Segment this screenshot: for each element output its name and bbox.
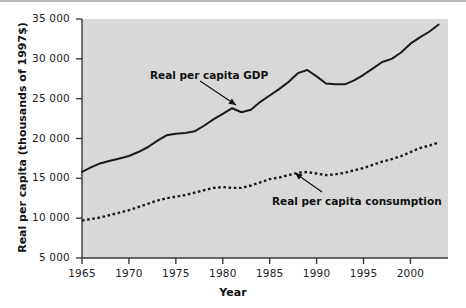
x-tick-label: 1985 [248,267,292,279]
y-tick-label: 15 000 [12,171,70,183]
annotation-consumption-label: Real per capita consumption [272,195,442,207]
plot-area-background [82,19,448,258]
x-tick-label: 2000 [388,267,432,279]
x-axis-title: Year [0,286,466,299]
x-tick-label: 1980 [201,267,245,279]
y-tick-label: 10 000 [12,211,70,223]
y-tick-label: 20 000 [12,132,70,144]
y-tick-label: 30 000 [12,52,70,64]
y-tick-label: 5 000 [12,251,70,263]
chart-figure: Real per capita (thousands of 1997$) Yea… [0,0,466,308]
x-tick-label: 1995 [342,267,386,279]
x-tick-label: 1990 [295,267,339,279]
x-tick-label: 1970 [107,267,151,279]
annotation-gdp-label: Real per capita GDP [150,69,268,81]
y-tick-label: 35 000 [12,12,70,24]
x-tick-label: 1965 [60,267,104,279]
x-tick-label: 1975 [154,267,198,279]
y-tick-label: 25 000 [12,92,70,104]
